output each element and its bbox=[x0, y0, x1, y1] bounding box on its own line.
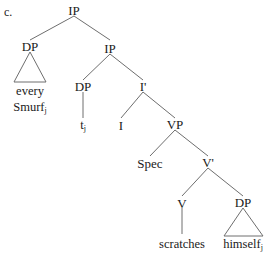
node-subject-dp: DP bbox=[22, 40, 39, 53]
branch-lower-ip-to-trace-dp bbox=[83, 54, 110, 80]
leaf-smurf-text: Smurf bbox=[13, 100, 44, 114]
leaf-scratches: scratches bbox=[159, 238, 205, 251]
branch-i-bar-to-vp bbox=[143, 92, 175, 118]
branch-i-bar-to-i-head bbox=[121, 92, 143, 118]
leaf-smurf: Smurfj bbox=[13, 101, 46, 117]
node-trace-dp: DP bbox=[75, 80, 92, 93]
node-root-ip: IP bbox=[68, 4, 80, 17]
leaf-every: every bbox=[16, 85, 44, 98]
branch-v-bar-to-object-dp bbox=[208, 168, 243, 196]
node-lower-ip: IP bbox=[104, 42, 116, 55]
node-i-head: I bbox=[119, 119, 123, 132]
syntax-tree-figure: c. IP DP IP every Smurfj DP I' tj I VP bbox=[0, 0, 274, 258]
branch-root-ip-to-subject-dp bbox=[30, 16, 74, 40]
branch-root-ip-to-lower-ip bbox=[74, 16, 110, 40]
node-v-bar: V' bbox=[202, 156, 214, 169]
node-vp: VP bbox=[167, 118, 184, 131]
leaf-himself: himselfj bbox=[223, 238, 263, 254]
branch-v-bar-to-v-head bbox=[182, 168, 208, 196]
triangle-object-dp bbox=[224, 208, 263, 236]
triangle-subject-dp bbox=[14, 52, 46, 82]
leaf-smurf-subscript: j bbox=[45, 106, 47, 115]
node-i-bar: I' bbox=[140, 80, 147, 93]
node-spec: Spec bbox=[137, 157, 162, 170]
leaf-himself-text: himself bbox=[223, 237, 261, 251]
node-object-dp: DP bbox=[235, 196, 252, 209]
leaf-trace-subscript: j bbox=[84, 124, 86, 133]
node-v-head: V bbox=[177, 197, 186, 210]
branch-lower-ip-to-i-bar bbox=[110, 54, 143, 80]
branch-vp-to-v-bar bbox=[175, 130, 208, 156]
leaf-trace: tj bbox=[80, 119, 86, 135]
tree-branches-svg bbox=[0, 0, 274, 258]
leaf-himself-subscript: j bbox=[261, 243, 263, 252]
branch-vp-to-spec bbox=[150, 130, 175, 156]
